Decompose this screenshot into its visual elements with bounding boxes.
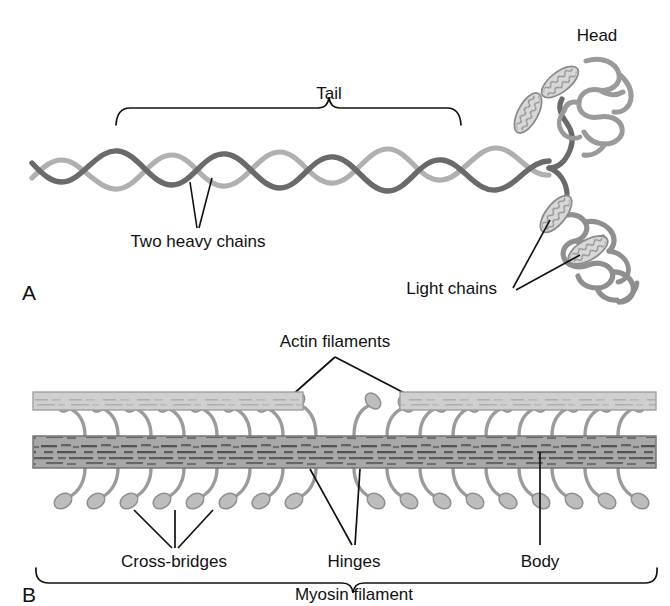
body-label: Body (521, 552, 560, 571)
tail-label: Tail (316, 84, 342, 103)
two-heavy-chains-label: Two heavy chains (130, 232, 265, 251)
panel-b-letter: B (22, 583, 36, 606)
actin-filament-left (33, 392, 303, 410)
actin-filaments-label: Actin filaments (280, 332, 391, 351)
head-label: Head (577, 26, 618, 45)
myosin-filament-label: Myosin filament (295, 585, 413, 604)
cross-bridges-label: Cross-bridges (121, 552, 227, 571)
panel-a-letter: A (22, 281, 36, 304)
myosin-filament-body (33, 436, 656, 468)
actin-filament-right (400, 392, 656, 410)
myosin-figure: Tail Head (0, 0, 670, 606)
light-chains-label: Light chains (406, 279, 497, 298)
hinges-label: Hinges (328, 552, 381, 571)
